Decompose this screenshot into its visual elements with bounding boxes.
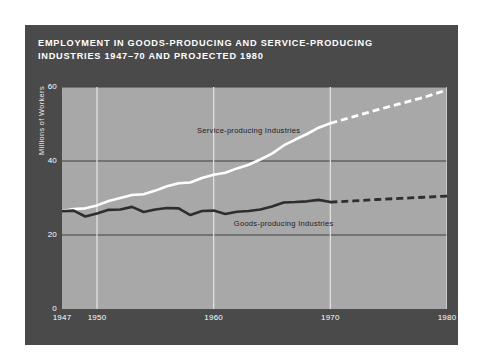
plot-area: Service-producing IndustriesGoods-produc… bbox=[62, 87, 447, 309]
x-tick-label: 1970 bbox=[315, 313, 345, 322]
y-tick-label: 60 bbox=[37, 82, 57, 91]
y-tick-label: 20 bbox=[37, 230, 57, 239]
chart-title: EMPLOYMENT IN GOODS-PRODUCING AND SERVIC… bbox=[38, 37, 438, 62]
line-chart: Service-producing IndustriesGoods-produc… bbox=[62, 87, 447, 309]
chart-card: EMPLOYMENT IN GOODS-PRODUCING AND SERVIC… bbox=[25, 25, 458, 345]
y-tick-label: 40 bbox=[37, 156, 57, 165]
x-tick-label: 1960 bbox=[199, 313, 229, 322]
x-tick-label: 1950 bbox=[82, 313, 112, 322]
y-tick-label: 0 bbox=[37, 304, 57, 313]
series-label: Goods-producing Industries bbox=[234, 219, 334, 228]
x-tick-label: 1947 bbox=[47, 313, 77, 322]
y-axis-label: Millions of Workers bbox=[37, 86, 46, 155]
x-tick-label: 1980 bbox=[432, 313, 462, 322]
title-line-2: INDUSTRIES 1947–70 AND PROJECTED 1980 bbox=[38, 50, 438, 63]
series-label: Service-producing Industries bbox=[197, 126, 300, 135]
title-line-1: EMPLOYMENT IN GOODS-PRODUCING AND SERVIC… bbox=[38, 37, 438, 50]
